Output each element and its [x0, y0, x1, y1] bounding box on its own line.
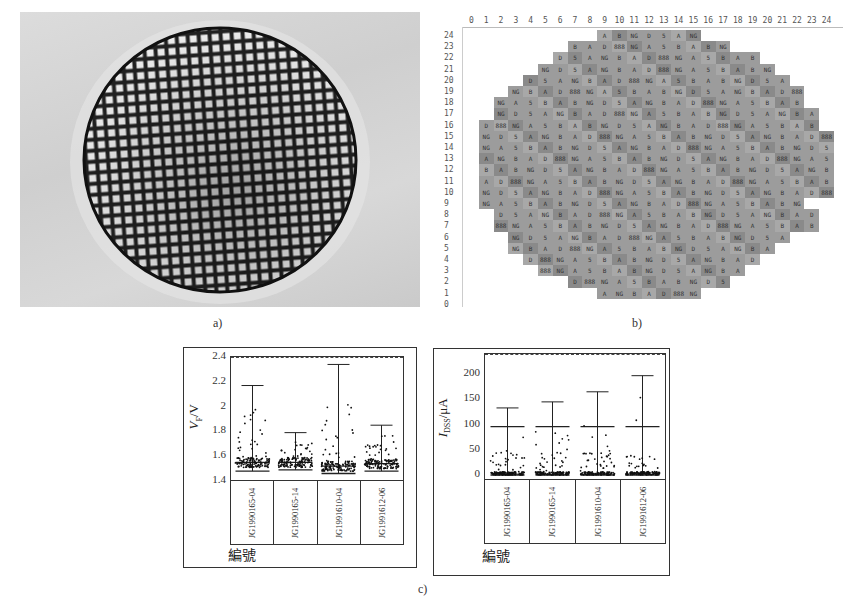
die-cell: 888	[597, 131, 612, 142]
die-cell: A	[656, 232, 671, 243]
die-cell: D	[597, 97, 612, 108]
die-cell: 5	[508, 131, 523, 142]
die-cell: B	[642, 153, 657, 164]
die-cell: A	[494, 142, 509, 153]
die-cell: NG	[568, 153, 583, 164]
die-cell: 5	[671, 254, 686, 265]
die-cell: A	[775, 75, 790, 86]
die-cell: B	[671, 220, 686, 231]
die-cell: B	[523, 142, 538, 153]
map-row-label: 17	[444, 109, 454, 118]
die-cell: 888	[819, 187, 834, 198]
die-cell: NG	[479, 142, 494, 153]
y-tick-label: 0	[452, 467, 480, 479]
die-cell: A	[656, 75, 671, 86]
die-cell: A	[523, 209, 538, 220]
die-cell: 888	[716, 120, 731, 131]
die-cell: D	[553, 243, 568, 254]
die-cell: NG	[745, 164, 760, 175]
die-cell: NG	[671, 52, 686, 63]
category-label: JG1990165-04	[247, 487, 257, 538]
die-cell: NG	[597, 120, 612, 131]
map-row-label: 19	[444, 87, 454, 96]
die-cell: A	[745, 153, 760, 164]
map-row-label: 4	[444, 255, 449, 264]
die-cell: D	[612, 75, 627, 86]
map-column-header: 13	[659, 16, 669, 25]
map-row-label: 0	[444, 300, 449, 309]
die-cell: 5	[760, 120, 775, 131]
die-cell: 888	[656, 52, 671, 63]
die-cell: A	[686, 41, 701, 52]
category-cell: JG1990165-04	[231, 481, 274, 544]
die-cell: A	[790, 131, 805, 142]
die-cell: B	[790, 97, 805, 108]
die-cell: B	[730, 164, 745, 175]
die-cell: 5	[627, 220, 642, 231]
die-cell: A	[568, 254, 583, 265]
die-cell: D	[538, 164, 553, 175]
die-cell: B	[775, 142, 790, 153]
die-cell: A	[656, 198, 671, 209]
die-cell: 5	[627, 120, 642, 131]
category-cell: JG1990165-14	[530, 480, 575, 543]
die-cell: NG	[790, 142, 805, 153]
die-cell: A	[597, 288, 612, 299]
die-cell: 888	[568, 86, 583, 97]
die-cell: D	[523, 232, 538, 243]
die-cell: B	[775, 220, 790, 231]
die-cell: 5	[701, 64, 716, 75]
die-cell: B	[523, 243, 538, 254]
die-cell: 5	[597, 142, 612, 153]
die-cell: 5	[701, 243, 716, 254]
map-row-label: 23	[444, 42, 454, 51]
die-cell: A	[701, 75, 716, 86]
category-label: JG1991612-06	[638, 486, 648, 537]
die-cell: 5	[523, 108, 538, 119]
die-cell: B	[701, 41, 716, 52]
die-cell: A	[553, 97, 568, 108]
die-cell: NG	[775, 108, 790, 119]
die-cell: NG	[612, 209, 627, 220]
die-cell: B	[656, 131, 671, 142]
die-cell: A	[612, 276, 627, 287]
die-cell: B	[775, 187, 790, 198]
die-cell: A	[671, 131, 686, 142]
die-cell: NG	[538, 64, 553, 75]
panel-b-label: b)	[632, 316, 642, 331]
die-cell: A	[538, 86, 553, 97]
die-cell: A	[804, 108, 819, 119]
die-cell: B	[745, 198, 760, 209]
map-column-header: 4	[528, 16, 533, 25]
panel-c-label: c)	[418, 582, 427, 597]
map-column-header: 10	[615, 16, 625, 25]
map-row-label: 7	[444, 221, 449, 230]
die-cell: A	[508, 97, 523, 108]
die-cell: B	[612, 64, 627, 75]
die-cell: A	[523, 131, 538, 142]
die-cell: 5	[730, 131, 745, 142]
die-cell: A	[627, 97, 642, 108]
map-column-header: 1	[484, 16, 489, 25]
die-cell: NG	[671, 243, 686, 254]
die-cell: B	[568, 108, 583, 119]
die-cell: D	[553, 64, 568, 75]
die-cell: NG	[553, 108, 568, 119]
die-cell: 5	[701, 52, 716, 63]
die-cell: 5	[642, 131, 657, 142]
die-cell: A	[612, 164, 627, 175]
die-cell: B	[745, 86, 760, 97]
map-column-header: 8	[587, 16, 592, 25]
category-label: JG1991610-04	[593, 486, 603, 537]
die-cell: 888	[568, 243, 583, 254]
die-cell: 888	[686, 198, 701, 209]
die-cell: 5	[730, 198, 745, 209]
map-column-header: 2	[499, 16, 504, 25]
die-cell: A	[597, 30, 612, 41]
die-cell: NG	[730, 86, 745, 97]
die-cell: 888	[730, 176, 745, 187]
die-cell: B	[760, 97, 775, 108]
die-cell: 5	[597, 198, 612, 209]
die-cell: 888	[612, 41, 627, 52]
die-cell: A	[775, 97, 790, 108]
